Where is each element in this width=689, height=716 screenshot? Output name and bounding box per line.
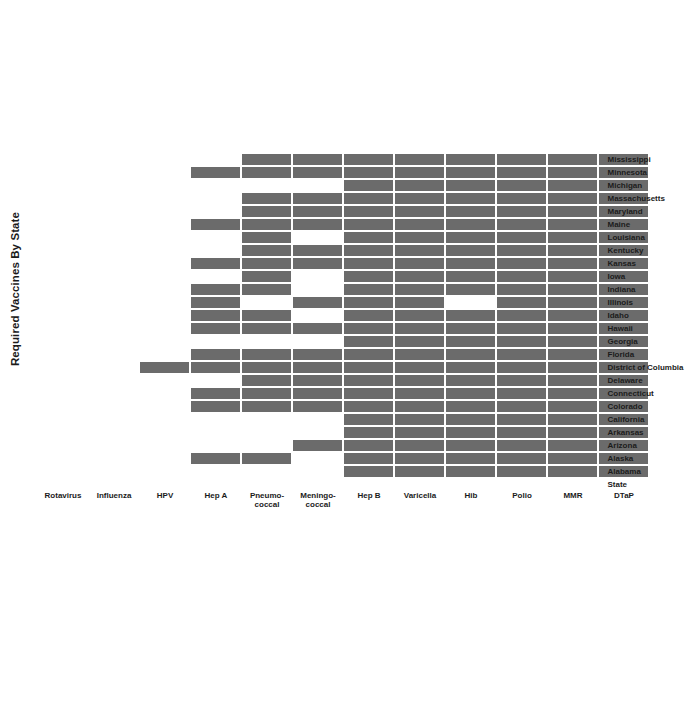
heatmap-cell <box>89 219 139 231</box>
heatmap-cell <box>548 362 598 374</box>
heatmap-cell <box>344 206 394 218</box>
heatmap-cell <box>140 401 190 413</box>
heatmap-cell <box>548 375 598 387</box>
heatmap-cell <box>191 258 241 270</box>
heatmap-cell <box>395 219 445 231</box>
heatmap-cell <box>497 323 547 335</box>
matrix-inner: DTaPMMRPolioHibVaricellaHep BMeningo-coc… <box>25 0 395 520</box>
heatmap-cell <box>191 206 241 218</box>
heatmap-cell <box>242 336 292 348</box>
heatmap-cell <box>446 440 496 452</box>
heatmap-cell <box>242 180 292 192</box>
heatmap-cell <box>293 440 343 452</box>
heatmap-cell <box>191 284 241 296</box>
heatmap-cell <box>344 375 394 387</box>
heatmap-cell <box>497 453 547 465</box>
state-axis-label: Illinois <box>608 298 689 307</box>
chart-title-container: Required Vaccines By State <box>6 139 24 439</box>
heatmap-cell <box>242 271 292 283</box>
heatmap-cell <box>191 427 241 439</box>
state-axis-label: Minnesota <box>608 168 689 177</box>
heatmap-cell <box>191 297 241 309</box>
matrix-rotation-wrapper: DTaPMMRPolioHibVaricellaHep BMeningo-coc… <box>115 0 305 520</box>
heatmap-cell <box>191 362 241 374</box>
heatmap-cell <box>242 414 292 426</box>
heatmap-cell <box>140 219 190 231</box>
heatmap-cell <box>497 232 547 244</box>
heatmap-cell <box>446 310 496 322</box>
state-axis-label: Louisiana <box>608 233 689 242</box>
heatmap-cell <box>446 336 496 348</box>
heatmap-cell <box>548 297 598 309</box>
heatmap-cell <box>38 219 88 231</box>
heatmap-cell <box>242 297 292 309</box>
heatmap-cell <box>89 362 139 374</box>
heatmap-cell <box>140 193 190 205</box>
heatmap-cell <box>293 219 343 231</box>
heatmap-cell <box>38 271 88 283</box>
heatmap-cell <box>191 323 241 335</box>
heatmap-cell <box>38 401 88 413</box>
state-axis-label: Delaware <box>608 376 689 385</box>
heatmap-cell <box>395 427 445 439</box>
heatmap-cell <box>242 232 292 244</box>
heatmap-cell <box>140 440 190 452</box>
heatmap-cell <box>191 245 241 257</box>
state-axis-label: Colorado <box>608 402 689 411</box>
heatmap-cell <box>293 258 343 270</box>
heatmap-cell <box>38 336 88 348</box>
heatmap-cell <box>293 193 343 205</box>
heatmap-cell <box>446 271 496 283</box>
heatmap-cell <box>293 427 343 439</box>
heatmap-cell <box>89 401 139 413</box>
heatmap-cell <box>140 310 190 322</box>
heatmap-cell <box>89 427 139 439</box>
heatmap-cell <box>548 453 598 465</box>
heatmap-cell <box>140 388 190 400</box>
heatmap-cell <box>38 414 88 426</box>
heatmap-cell <box>191 193 241 205</box>
state-axis-label: Mississippi <box>608 155 689 164</box>
heatmap-cell <box>395 297 445 309</box>
heatmap-cell <box>38 466 88 478</box>
vaccine-axis-label: Rotavirus <box>43 491 83 500</box>
heatmap-grid <box>37 153 649 478</box>
heatmap-cell <box>89 232 139 244</box>
heatmap-cell <box>38 349 88 361</box>
heatmap-cell <box>497 310 547 322</box>
heatmap-cell <box>38 206 88 218</box>
heatmap-cell <box>446 167 496 179</box>
heatmap-cell <box>344 362 394 374</box>
heatmap-cell <box>242 284 292 296</box>
heatmap-cell <box>89 154 139 166</box>
heatmap-cell <box>242 219 292 231</box>
heatmap-cell <box>242 310 292 322</box>
heatmap-cell <box>293 388 343 400</box>
heatmap-cell <box>395 349 445 361</box>
heatmap-cell <box>395 245 445 257</box>
heatmap-cell <box>38 375 88 387</box>
heatmap-cell <box>548 388 598 400</box>
heatmap-cell <box>548 193 598 205</box>
heatmap-cell <box>38 440 88 452</box>
heatmap-cell <box>344 336 394 348</box>
heatmap-cell <box>395 232 445 244</box>
heatmap-cell <box>548 310 598 322</box>
heatmap-cell <box>191 375 241 387</box>
vaccine-axis-label: Pneumo-coccal <box>247 491 287 509</box>
heatmap-cell <box>344 297 394 309</box>
heatmap-cell <box>497 401 547 413</box>
heatmap-cell <box>242 349 292 361</box>
heatmap-cell <box>548 284 598 296</box>
heatmap-cell <box>497 297 547 309</box>
heatmap-cell <box>293 323 343 335</box>
state-axis-label: Massachusetts <box>608 194 689 203</box>
heatmap-cell <box>140 232 190 244</box>
heatmap-cell <box>293 284 343 296</box>
heatmap-cell <box>191 154 241 166</box>
heatmap-cell <box>446 245 496 257</box>
state-axis-label: Iowa <box>608 272 689 281</box>
heatmap-cell <box>89 297 139 309</box>
heatmap-cell <box>242 245 292 257</box>
heatmap-cell <box>344 388 394 400</box>
